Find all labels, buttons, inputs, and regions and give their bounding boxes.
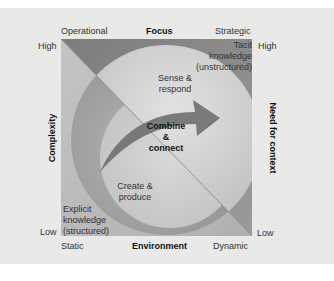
combine-line-2: & (136, 132, 196, 143)
tacit-knowledge-label: Tacit knowledge (unstructured) (196, 40, 252, 73)
bottom-left-label: Static (61, 241, 84, 252)
combine-connect-label: Combine & connect (136, 121, 196, 154)
sense-respond-label: Sense & respond (150, 73, 200, 95)
tacit-line-1: Tacit (196, 40, 252, 51)
tacit-line-3: (unstructured) (196, 62, 252, 73)
bottom-axis-title: Environment (132, 241, 187, 252)
explicit-line-3: (structured) (63, 226, 109, 237)
right-high-label: High (258, 41, 277, 52)
sense-line-1: Sense & (150, 73, 200, 84)
create-line-2: produce (110, 192, 160, 203)
right-axis-title: Need for context (268, 90, 278, 186)
left-axis-title: Complexity (47, 108, 57, 168)
explicit-line-2: knowledge (63, 215, 109, 226)
explicit-knowledge-label: Explicit knowledge (structured) (63, 204, 109, 237)
tacit-line-2: knowledge (196, 51, 252, 62)
create-line-1: Create & (110, 181, 160, 192)
top-axis-title: Focus (146, 26, 173, 37)
left-high-label: High (38, 41, 57, 52)
combine-line-3: connect (136, 143, 196, 154)
top-right-label: Strategic (215, 26, 251, 37)
left-low-label: Low (40, 227, 57, 238)
bottom-right-label: Dynamic (213, 241, 248, 252)
combine-line-1: Combine (136, 121, 196, 132)
right-low-label: Low (257, 228, 274, 239)
sense-line-2: respond (150, 84, 200, 95)
explicit-line-1: Explicit (63, 204, 109, 215)
top-left-label: Operational (61, 26, 108, 37)
create-produce-label: Create & produce (110, 181, 160, 203)
